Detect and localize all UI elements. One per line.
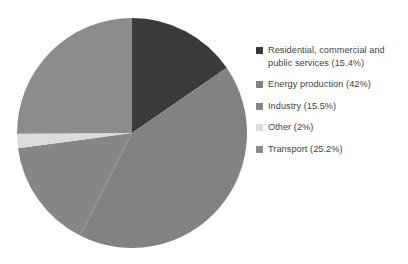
legend-label-residential: Residential, commercial and public servi… (268, 44, 408, 69)
pie-chart-figure: Residential, commercial and public servi… (0, 0, 408, 264)
legend-item-energy-production[interactable]: Energy production (42%) (256, 78, 408, 91)
legend-swatch-icon-transport (256, 146, 263, 153)
legend-label-industry: Industry (15.5%) (268, 100, 336, 113)
pie-chart (0, 0, 264, 264)
pie-slice-group (17, 18, 247, 248)
pie-slice-transport[interactable] (17, 18, 132, 134)
chart-legend: Residential, commercial and public servi… (256, 44, 408, 164)
legend-item-industry[interactable]: Industry (15.5%) (256, 100, 408, 113)
legend-swatch-icon-other (256, 124, 263, 131)
legend-item-residential[interactable]: Residential, commercial and public servi… (256, 44, 408, 69)
legend-label-energy-production: Energy production (42%) (268, 78, 371, 91)
legend-label-other: Other (2%) (268, 121, 313, 134)
legend-item-transport[interactable]: Transport (25.2%) (256, 143, 408, 156)
legend-label-transport: Transport (25.2%) (268, 143, 343, 156)
legend-item-other[interactable]: Other (2%) (256, 121, 408, 134)
legend-swatch-icon-residential (256, 47, 263, 54)
legend-swatch-icon-energy-production (256, 81, 263, 88)
legend-swatch-icon-industry (256, 103, 263, 110)
